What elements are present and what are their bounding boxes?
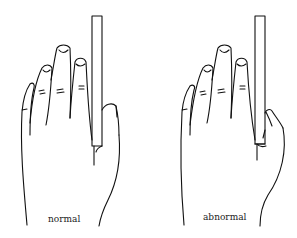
caption-normal: normal <box>48 214 80 224</box>
normal-hand-drawing <box>21 16 119 226</box>
hand-diagram <box>0 0 297 238</box>
caption-abnormal: abnormal <box>203 212 246 222</box>
abnormal-hand-drawing <box>181 16 284 226</box>
card-abnormal <box>255 16 265 144</box>
card-normal <box>92 16 102 146</box>
